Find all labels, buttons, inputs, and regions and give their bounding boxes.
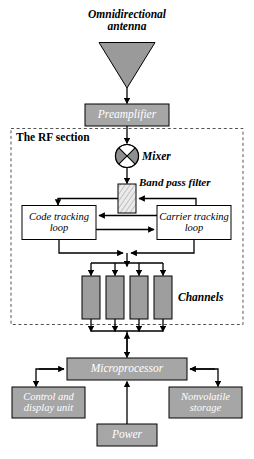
edge-carriertracking-bandpassfilter xyxy=(139,199,196,206)
power-box xyxy=(97,424,157,446)
channel-box xyxy=(82,276,100,319)
gps-receiver-block-diagram: Omnidirectional antenna Preamplifier The… xyxy=(0,0,254,459)
channel-box xyxy=(106,276,124,319)
edge-carriertracking-to-bus xyxy=(131,240,194,254)
control-display-unit-box xyxy=(12,387,85,418)
microprocessor-box xyxy=(67,358,187,380)
carrier-tracking-loop-box xyxy=(157,206,231,240)
code-tracking-loop-box xyxy=(22,206,96,240)
diagram-canvas xyxy=(0,0,254,459)
preamplifier-box xyxy=(85,104,169,126)
antenna-shape xyxy=(99,43,155,89)
edge-bandpassfilter-codetracking xyxy=(58,199,118,206)
edge-microprocessor-nonvolatile xyxy=(190,369,218,387)
edge-microprocessor-controldisplay xyxy=(36,369,64,387)
nonvolatile-storage-box xyxy=(169,387,242,418)
channel-box xyxy=(154,276,172,319)
mixer-shape xyxy=(116,145,139,168)
edge-codetracking-to-bus xyxy=(59,240,123,254)
channel-box xyxy=(130,276,148,319)
band-pass-filter-box xyxy=(118,184,136,213)
